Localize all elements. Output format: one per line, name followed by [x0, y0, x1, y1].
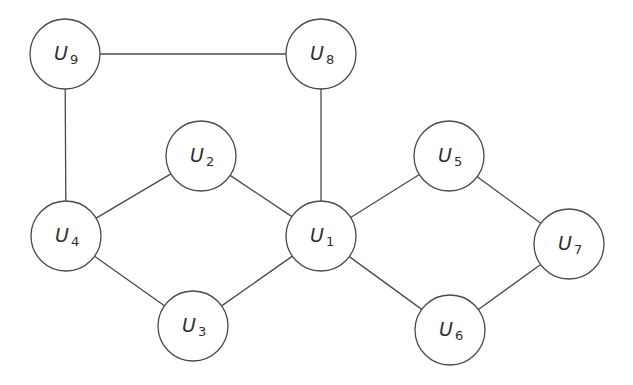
graph-diagram: U1U2U3U4U5U6U7U8U9: [0, 0, 633, 385]
node-label-variable: U: [558, 232, 572, 254]
node-u1: U1: [286, 201, 356, 271]
node-u7: U7: [534, 209, 604, 279]
edge-u1-u5: [351, 175, 420, 218]
node-label-subscript: 3: [198, 324, 206, 339]
edge-u4-u3: [95, 256, 165, 306]
node-label-subscript: 6: [455, 328, 463, 343]
node-label-subscript: 9: [70, 52, 78, 67]
edge-u6-u7: [478, 265, 540, 310]
node-u3: U3: [158, 291, 228, 361]
node-label-subscript: 2: [206, 154, 214, 169]
node-label-variable: U: [55, 224, 69, 246]
node-label-subscript: 7: [574, 242, 582, 257]
edge-u3-u1: [222, 256, 293, 306]
edge-u5-u7: [477, 177, 541, 224]
node-u2: U2: [166, 121, 236, 191]
node-label-variable: U: [190, 144, 204, 166]
node-label-subscript: 8: [326, 52, 334, 67]
node-label-variable: U: [310, 224, 324, 246]
node-label-subscript: 1: [326, 234, 334, 249]
node-label-subscript: 4: [71, 234, 79, 249]
node-u8: U8: [286, 19, 356, 89]
node-label-variable: U: [54, 42, 68, 64]
edge-u2-u1: [230, 175, 292, 216]
edge-u4-u2: [96, 174, 171, 218]
nodes-layer: U1U2U3U4U5U6U7U8U9: [30, 19, 604, 365]
node-label-variable: U: [439, 318, 453, 340]
node-u5: U5: [414, 121, 484, 191]
edge-u9-u4: [65, 89, 66, 201]
node-label-variable: U: [182, 314, 196, 336]
node-label-subscript: 5: [454, 154, 462, 169]
node-u4: U4: [31, 201, 101, 271]
node-u9: U9: [30, 19, 100, 89]
edge-u1-u6: [349, 257, 421, 310]
node-label-variable: U: [310, 42, 324, 64]
node-u6: U6: [415, 295, 485, 365]
node-label-variable: U: [438, 144, 452, 166]
